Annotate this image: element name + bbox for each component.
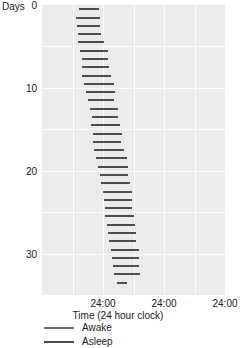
sleep-bar bbox=[96, 157, 127, 159]
sleep-bar bbox=[88, 99, 115, 101]
sleep-bar bbox=[101, 182, 130, 184]
horizontal-gridline bbox=[42, 88, 225, 89]
sleep-bar bbox=[91, 124, 120, 126]
legend-line-icon bbox=[44, 341, 74, 343]
sleep-bar bbox=[80, 50, 108, 52]
sleep-bar bbox=[104, 199, 132, 201]
horizontal-gridline bbox=[42, 129, 225, 130]
sleep-bar bbox=[76, 17, 100, 19]
legend-line-icon bbox=[44, 327, 74, 329]
y-axis-tick-label: 10 bbox=[0, 83, 37, 94]
sleep-bar bbox=[82, 58, 108, 60]
vertical-gridline bbox=[195, 5, 196, 295]
y-axis-tick-label: 30 bbox=[0, 249, 37, 260]
vertical-gridline bbox=[164, 5, 165, 295]
vertical-gridline bbox=[73, 5, 74, 295]
plot-area bbox=[42, 5, 225, 295]
sleep-bar bbox=[111, 249, 139, 251]
sleep-bar bbox=[108, 232, 136, 234]
vertical-gridline bbox=[134, 5, 135, 295]
y-axis-tick-label: 0 bbox=[0, 0, 37, 11]
y-axis-tick-label: 20 bbox=[0, 166, 37, 177]
sleep-bar bbox=[100, 174, 129, 176]
sleep-bar bbox=[112, 257, 139, 259]
x-axis-tick-label: 24:00 bbox=[81, 298, 125, 309]
sleep-bar bbox=[82, 66, 109, 68]
legend-label: Awake bbox=[82, 322, 112, 334]
x-axis-tick-label: 24:00 bbox=[142, 298, 186, 309]
x-axis-title: Time (24 hour clock) bbox=[0, 310, 236, 322]
sleep-bar bbox=[94, 149, 124, 151]
sleep-bar bbox=[78, 41, 105, 43]
sleep-bar bbox=[79, 8, 99, 10]
sleep-bar bbox=[86, 91, 115, 93]
sleep-bar bbox=[107, 224, 136, 226]
sleep-bar bbox=[109, 240, 136, 242]
sleep-bar bbox=[84, 83, 114, 85]
legend-label: Asleep bbox=[82, 336, 113, 348]
horizontal-gridline bbox=[42, 254, 225, 255]
sleep-bar bbox=[117, 282, 127, 284]
sleep-bar bbox=[103, 191, 133, 193]
sleep-bar bbox=[78, 33, 101, 35]
sleep-bar bbox=[90, 108, 118, 110]
sleep-bar bbox=[114, 273, 140, 275]
horizontal-gridline bbox=[42, 212, 225, 213]
sleep-bar bbox=[92, 116, 118, 118]
sleep-bar bbox=[77, 25, 101, 27]
sleep-bar bbox=[82, 75, 111, 77]
horizontal-gridline bbox=[42, 46, 225, 47]
sleep-bar bbox=[105, 207, 133, 209]
horizontal-gridline bbox=[42, 171, 225, 172]
x-axis-tick-label: 24:00 bbox=[203, 298, 247, 309]
sleep-bar bbox=[93, 141, 121, 143]
sleep-bar bbox=[105, 215, 134, 217]
sleep-bar bbox=[113, 265, 138, 267]
sleep-bar bbox=[98, 166, 128, 168]
sleep-bar bbox=[93, 133, 122, 135]
